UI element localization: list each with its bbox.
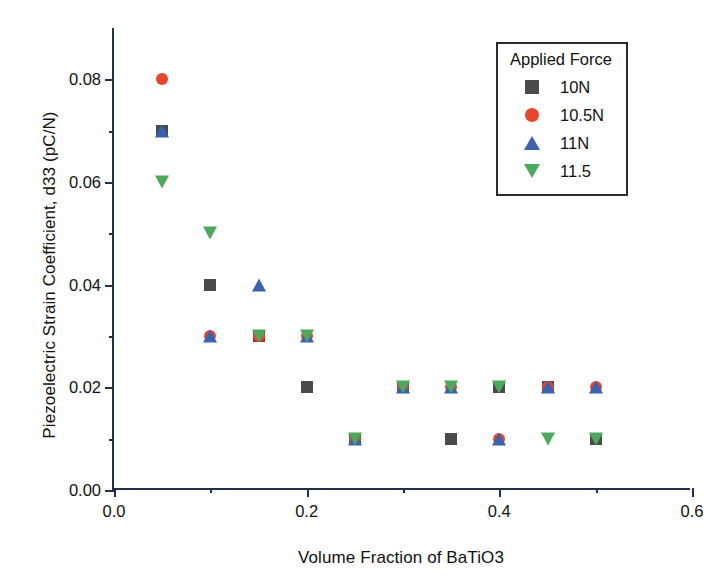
- legend-item-label: 10N: [560, 78, 590, 97]
- data-point: [590, 381, 602, 393]
- x-axis-tick: [692, 488, 694, 497]
- data-point: [589, 432, 603, 445]
- data-point: [493, 433, 505, 445]
- data-point: [541, 381, 555, 394]
- data-point: [348, 432, 362, 445]
- data-point: [253, 330, 265, 342]
- x-axis-minor-tick: [210, 488, 212, 493]
- legend-marker-triangle-up-icon: [510, 136, 554, 150]
- legend-marker-circle-icon: [510, 108, 554, 122]
- data-point: [542, 381, 554, 393]
- data-point: [155, 176, 169, 189]
- data-point: [252, 278, 266, 291]
- data-point: [156, 125, 168, 137]
- data-point: [300, 330, 314, 343]
- y-axis-tick-label: 0.02: [69, 378, 101, 397]
- y-axis-minor-tick: [109, 336, 114, 338]
- x-axis-tick: [114, 488, 116, 497]
- data-point: [301, 381, 313, 393]
- data-point: [445, 433, 457, 445]
- data-point: [397, 381, 409, 393]
- x-axis-tick: [307, 488, 309, 497]
- data-point: [348, 432, 362, 445]
- y-axis-tick: [105, 182, 114, 184]
- legend-item: 11N: [510, 129, 612, 157]
- data-point: [349, 433, 361, 445]
- y-axis-tick-label: 0.00: [69, 481, 101, 500]
- y-axis-tick-label: 0.08: [69, 70, 101, 89]
- data-point: [492, 432, 506, 445]
- x-axis-tick-label: 0.6: [681, 502, 704, 521]
- data-point: [590, 433, 602, 445]
- data-point: [300, 330, 314, 343]
- data-point: [203, 227, 217, 240]
- chart-figure: Piezoelectric Strain Coefficient, d33 (p…: [0, 0, 718, 588]
- x-axis-tick-label: 0.4: [488, 502, 511, 521]
- legend-item: 10N: [510, 73, 612, 101]
- x-axis-minor-tick: [403, 488, 405, 493]
- legend-marker-square-icon: [510, 80, 554, 94]
- legend-item: 11.5: [510, 157, 612, 185]
- data-point: [155, 124, 169, 137]
- legend-item: 10.5N: [510, 101, 612, 129]
- y-axis-tick: [105, 490, 114, 492]
- x-axis-tick-label: 0.2: [295, 502, 318, 521]
- y-axis-tick-label: 0.04: [69, 275, 101, 294]
- data-point: [396, 381, 410, 394]
- y-axis-tick: [105, 79, 114, 81]
- data-point: [253, 330, 265, 342]
- y-axis-minor-tick: [109, 233, 114, 235]
- y-axis-tick-label: 0.06: [69, 173, 101, 192]
- data-point: [349, 433, 361, 445]
- data-point: [541, 432, 555, 445]
- legend-item-label: 10.5N: [560, 106, 604, 125]
- y-axis-minor-tick: [109, 131, 114, 133]
- data-point: [492, 381, 506, 394]
- data-point: [396, 381, 410, 394]
- data-point: [542, 381, 554, 393]
- x-axis-title: Volume Fraction of BaTiO3: [112, 548, 690, 568]
- y-axis-tick: [105, 387, 114, 389]
- data-point: [204, 279, 216, 291]
- data-point: [252, 330, 266, 343]
- data-point: [445, 381, 457, 393]
- data-point: [397, 381, 409, 393]
- data-point: [444, 381, 458, 394]
- data-point: [493, 381, 505, 393]
- x-axis-minor-tick: [596, 488, 598, 493]
- x-axis-tick-label: 0.0: [103, 502, 126, 521]
- data-point: [203, 330, 217, 343]
- data-point: [204, 330, 216, 342]
- data-point: [156, 73, 168, 85]
- legend-entries: 10N10.5N11N11.5: [510, 73, 612, 185]
- legend-item-label: 11N: [560, 134, 589, 153]
- y-axis-title: Piezoelectric Strain Coefficient, d33 (p…: [40, 45, 60, 505]
- legend-marker-triangle-down-icon: [510, 164, 554, 178]
- data-point: [444, 381, 458, 394]
- y-axis-tick: [105, 285, 114, 287]
- chart-legend: Applied Force 10N10.5N11N11.5: [496, 42, 628, 196]
- data-point: [301, 330, 313, 342]
- y-axis-minor-tick: [109, 439, 114, 441]
- x-axis-tick: [499, 488, 501, 497]
- data-point: [589, 381, 603, 394]
- legend-title: Applied Force: [510, 50, 612, 69]
- legend-item-label: 11.5: [560, 162, 591, 181]
